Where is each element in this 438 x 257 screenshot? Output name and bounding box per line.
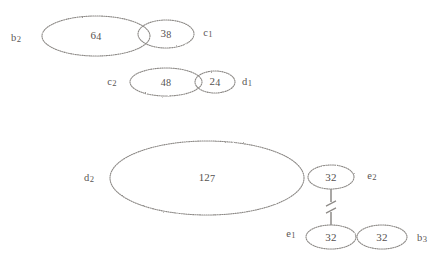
node-name-label: c1 bbox=[203, 28, 212, 39]
node-value: 38 bbox=[161, 28, 172, 41]
node-value: 48 bbox=[161, 76, 172, 89]
broken-connector bbox=[326, 189, 336, 225]
node-name-label: b3 bbox=[417, 233, 427, 244]
node-name-label: d1 bbox=[242, 77, 252, 88]
node-name-label: d2 bbox=[84, 173, 94, 184]
node-value: 32 bbox=[325, 172, 336, 183]
node-value: 32 bbox=[376, 232, 387, 243]
node-name-label: e1 bbox=[286, 229, 295, 240]
node-name-label: c2 bbox=[107, 77, 116, 88]
node-name-label: e2 bbox=[367, 171, 376, 182]
diagram-vector-layer bbox=[0, 0, 438, 257]
node-value: 24 bbox=[210, 76, 221, 89]
node-value: 32 bbox=[325, 232, 336, 243]
diagram-canvas: 64384824127323232 b2c1c2d1d2e2e1b3 bbox=[0, 0, 438, 257]
node-name-label: b2 bbox=[11, 33, 21, 44]
ellipses-group bbox=[42, 16, 407, 249]
node-value: 64 bbox=[91, 30, 102, 43]
node-value: 127 bbox=[199, 172, 216, 185]
connectors-group bbox=[166, 48, 336, 225]
